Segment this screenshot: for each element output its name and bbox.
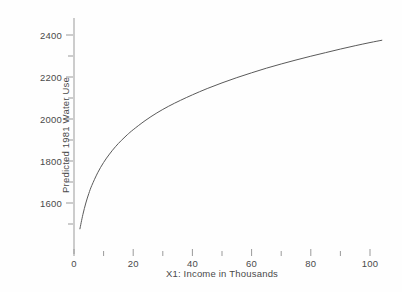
y-tick-label: 1800 xyxy=(20,156,62,167)
x-axis-label: X1: Income in Thousands xyxy=(166,268,278,279)
x-tick-label: 0 xyxy=(71,258,76,269)
x-tick-label: 80 xyxy=(305,258,316,269)
chart-figure: 16001800200022002400 020406080100 X1: In… xyxy=(0,0,402,292)
x-tick-label: 100 xyxy=(362,258,378,269)
x-tick-label: 20 xyxy=(128,258,139,269)
y-tick-label: 1600 xyxy=(20,198,62,209)
series-line-predicted-water-use xyxy=(80,40,382,229)
y-tick-label: 2200 xyxy=(20,72,62,83)
y-tick-label: 2000 xyxy=(20,114,62,125)
y-axis-label: Predicted 1981 Water Use xyxy=(60,77,71,193)
x-axis-ticks xyxy=(74,249,370,256)
data-series-group xyxy=(80,40,382,229)
y-tick-label: 2400 xyxy=(20,30,62,41)
